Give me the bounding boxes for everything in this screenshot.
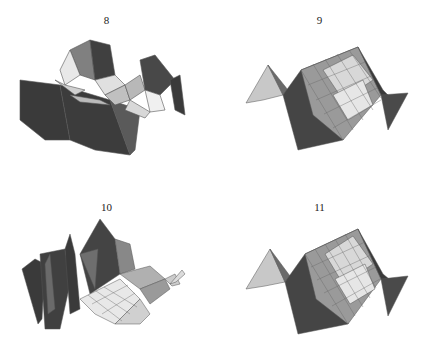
surface-plot-10 (0, 174, 213, 348)
plot-panel-11: 11 (213, 174, 426, 348)
plot-panel-10: 10 (0, 174, 213, 348)
plot-panel-9: 9 (213, 0, 426, 174)
surface-plot-11 (213, 174, 426, 348)
surface-plot-8 (0, 0, 213, 174)
surface-plot-9 (213, 0, 426, 174)
plot-panel-8: 8 (0, 0, 213, 174)
